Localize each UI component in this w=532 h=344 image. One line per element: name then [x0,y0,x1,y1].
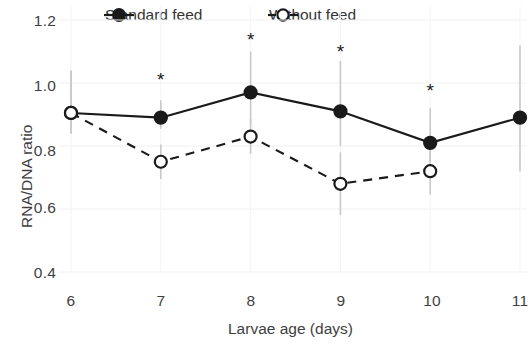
series-line-standard-feed [71,92,520,142]
data-point-without-feed-7 [155,156,167,168]
data-point-without-feed-6 [65,107,77,119]
significance-asterisk-day-9: * [330,42,350,61]
data-point-without-feed-9 [334,178,346,190]
data-point-standard-feed-10 [424,136,437,149]
significance-asterisk-day-10: * [420,81,440,100]
data-point-standard-feed-8 [244,86,257,99]
data-point-standard-feed-9 [334,105,347,118]
data-point-standard-feed-7 [154,111,167,124]
data-point-standard-feed-11 [514,111,527,124]
significance-asterisk-day-7: * [151,70,171,89]
data-point-without-feed-10 [424,165,436,177]
significance-asterisk-day-8: * [241,30,261,49]
data-point-without-feed-8 [245,131,257,143]
